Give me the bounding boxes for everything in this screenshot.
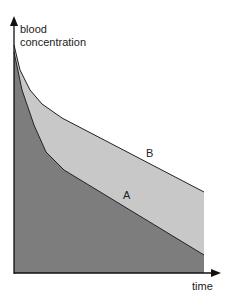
curve-b-label: B — [146, 147, 153, 159]
x-axis-arrow — [211, 269, 221, 277]
curve-a-label: A — [123, 189, 130, 201]
y-axis-label-line1: blood — [20, 23, 47, 35]
x-axis-label: time — [192, 280, 213, 292]
y-axis-label-line2: concentration — [20, 36, 86, 48]
y-axis-arrow — [10, 16, 18, 26]
